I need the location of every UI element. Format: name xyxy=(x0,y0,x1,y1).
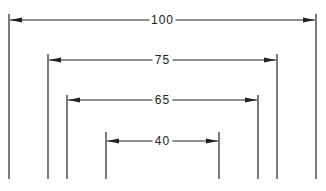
dimension-label: 75 xyxy=(155,53,170,67)
dimension-75: 75 xyxy=(48,53,277,179)
dimension-label: 40 xyxy=(155,134,170,148)
dimension-label: 65 xyxy=(155,93,170,107)
dimension-diagram: 100756540 xyxy=(0,0,326,191)
dimension-40: 40 xyxy=(106,132,219,179)
dimension-label: 100 xyxy=(151,13,174,27)
